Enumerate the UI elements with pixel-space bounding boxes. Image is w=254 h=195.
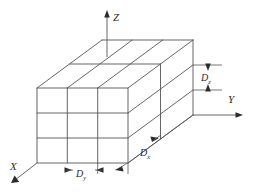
dimension-label-dy: Dy bbox=[75, 168, 86, 181]
axis-label-x: X bbox=[9, 160, 18, 172]
dimension-dx: Dx bbox=[115, 135, 161, 171]
axis-label-z: Z bbox=[113, 11, 120, 23]
dimension-dz: Dz bbox=[193, 64, 222, 92]
dx-arrowheads bbox=[115, 137, 159, 172]
axis-label-y: Y bbox=[228, 93, 236, 105]
axis-z-arrowhead bbox=[104, 10, 110, 18]
dz-subscript-text: z bbox=[207, 78, 211, 85]
dy-subscript-text: y bbox=[82, 174, 86, 181]
figure-container: Z Y X Dz bbox=[0, 0, 254, 195]
axis-y bbox=[193, 112, 243, 118]
axis-y-arrowhead bbox=[236, 112, 244, 118]
grid-diagram: Z Y X Dz bbox=[0, 0, 254, 195]
top-face bbox=[37, 40, 193, 88]
axis-x-arrowhead bbox=[11, 176, 19, 183]
dimension-dy: Dy bbox=[65, 163, 129, 181]
axis-z bbox=[104, 10, 110, 57]
dx-subscript-text: x bbox=[146, 153, 150, 160]
dimension-label-dx: Dx bbox=[139, 147, 150, 160]
dimension-label-dz: Dz bbox=[200, 72, 211, 85]
front-face bbox=[37, 88, 128, 163]
block-geometry bbox=[37, 40, 193, 163]
